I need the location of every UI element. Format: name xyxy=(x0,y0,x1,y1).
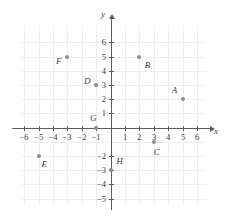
grid-line-horizontal xyxy=(22,156,206,157)
point-label-b: B xyxy=(144,60,150,70)
grid-line-vertical xyxy=(197,25,198,206)
y-axis-tick xyxy=(109,42,114,43)
y-axis-tick xyxy=(109,199,114,200)
grid-line-vertical xyxy=(53,25,54,206)
plotted-point-b xyxy=(137,55,141,59)
y-axis-label: y xyxy=(101,9,105,19)
grid-line-horizontal xyxy=(22,85,206,86)
plotted-point-e xyxy=(37,154,41,158)
y-axis-tick xyxy=(109,113,114,114)
plotted-point-a xyxy=(181,97,185,101)
x-axis-tick xyxy=(82,126,83,131)
point-label-h: H xyxy=(116,156,123,166)
y-axis-tick-label: 2 xyxy=(88,94,106,104)
point-label-a: A xyxy=(172,85,178,95)
x-axis-tick xyxy=(139,126,140,131)
plotted-point-c xyxy=(152,140,156,144)
grid-line-horizontal xyxy=(22,170,206,171)
y-axis-tick xyxy=(109,184,114,185)
y-axis-tick xyxy=(109,57,114,58)
y-axis-tick-label: −4 xyxy=(88,179,106,189)
point-label-d: D xyxy=(84,76,91,86)
grid-line-horizontal xyxy=(22,42,206,43)
y-axis-tick-label: −5 xyxy=(88,194,106,204)
x-axis-tick-label: 1 xyxy=(123,132,127,142)
x-axis-tick-label: −1 xyxy=(91,132,100,142)
grid-line-vertical xyxy=(168,25,169,206)
grid-line-horizontal xyxy=(22,184,206,185)
x-axis-tick-label: 4 xyxy=(166,132,170,142)
x-axis-label: x xyxy=(214,126,218,136)
grid-line-vertical xyxy=(154,25,155,206)
grid-line-vertical xyxy=(183,25,184,206)
plotted-point-h xyxy=(109,168,113,172)
x-axis-tick-label: −3 xyxy=(62,132,71,142)
y-axis-tick xyxy=(109,156,114,157)
point-label-g: G xyxy=(90,113,97,123)
x-axis-tick xyxy=(125,126,126,131)
grid-line-vertical xyxy=(24,25,25,206)
x-axis-tick-label: 5 xyxy=(181,132,185,142)
x-axis-tick-label: −5 xyxy=(34,132,43,142)
grid-line-vertical xyxy=(125,25,126,206)
x-axis-tick-label: 6 xyxy=(195,132,199,142)
point-label-e: E xyxy=(42,159,48,169)
x-axis-tick-label: −2 xyxy=(77,132,86,142)
y-axis-tick-label: 6 xyxy=(88,37,106,47)
grid-line-vertical xyxy=(39,25,40,206)
grid-line-horizontal xyxy=(22,199,206,200)
x-axis-tick xyxy=(24,126,25,131)
x-axis-tick xyxy=(154,126,155,131)
coordinate-plane-figure: xy−6−5−4−3−2−1123456654321−2−3−4−5ABCDEF… xyxy=(0,0,227,222)
x-axis-tick xyxy=(183,126,184,131)
y-axis-arrow xyxy=(109,14,115,19)
x-axis-tick xyxy=(53,126,54,131)
x-axis-tick-label: −4 xyxy=(48,132,57,142)
y-axis-tick xyxy=(109,99,114,100)
x-axis-tick xyxy=(197,126,198,131)
plotted-point-f xyxy=(65,55,69,59)
y-axis-tick-label: 5 xyxy=(88,52,106,62)
x-axis-tick-label: 2 xyxy=(137,132,141,142)
x-axis-tick xyxy=(39,126,40,131)
point-label-c: C xyxy=(154,147,160,157)
y-axis-tick xyxy=(109,71,114,72)
point-label-f: F xyxy=(56,56,62,66)
y-axis-tick-label: −3 xyxy=(88,165,106,175)
grid-line-horizontal xyxy=(22,57,206,58)
y-axis xyxy=(111,18,112,210)
grid-line-vertical xyxy=(67,25,68,206)
x-axis-tick-label: −6 xyxy=(19,132,28,142)
y-axis-tick xyxy=(109,85,114,86)
grid-line-horizontal xyxy=(22,142,206,143)
grid-line-horizontal xyxy=(22,71,206,72)
x-axis-tick xyxy=(168,126,169,131)
grid-line-vertical xyxy=(139,25,140,206)
grid-line-horizontal xyxy=(22,113,206,114)
plotted-point-d xyxy=(94,83,98,87)
grid-line-vertical xyxy=(82,25,83,206)
x-axis-tick xyxy=(67,126,68,131)
grid-panel xyxy=(22,25,206,206)
grid-line-horizontal xyxy=(22,99,206,100)
plotted-point-g xyxy=(94,126,98,130)
y-axis-tick-label: −2 xyxy=(88,151,106,161)
y-axis-tick-label: 4 xyxy=(88,66,106,76)
